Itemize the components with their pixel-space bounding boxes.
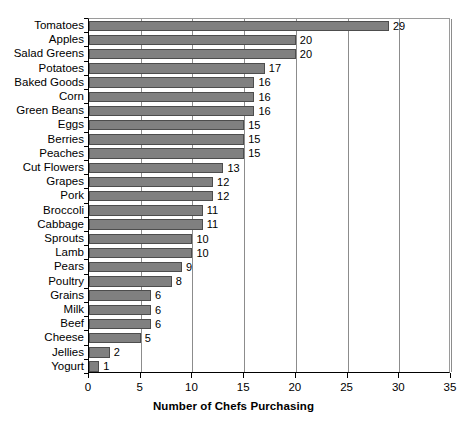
bar-row: 11 bbox=[89, 218, 449, 232]
bar[interactable] bbox=[89, 205, 203, 215]
y-axis-tick bbox=[84, 18, 88, 19]
x-axis-tick bbox=[243, 373, 244, 378]
bar-value-label: 16 bbox=[258, 90, 270, 104]
bar[interactable] bbox=[89, 361, 99, 371]
bar[interactable] bbox=[89, 219, 203, 229]
y-axis-tick bbox=[84, 103, 88, 104]
bar[interactable] bbox=[89, 177, 213, 187]
y-axis-tick bbox=[84, 61, 88, 62]
bar[interactable] bbox=[89, 63, 265, 73]
bar[interactable] bbox=[89, 49, 296, 59]
category-label-milk: Milk bbox=[0, 302, 84, 316]
y-axis-tick bbox=[84, 330, 88, 331]
x-axis-title: Number of Chefs Purchasing bbox=[0, 400, 467, 412]
bar-row: 16 bbox=[89, 76, 449, 90]
bar-value-label: 2 bbox=[114, 345, 120, 359]
category-label-salad-greens: Salad Greens bbox=[0, 46, 84, 60]
x-axis-tick-label: 25 bbox=[327, 380, 367, 394]
bar-row: 16 bbox=[89, 104, 449, 118]
bar[interactable] bbox=[89, 305, 151, 315]
category-label-pears: Pears bbox=[0, 259, 84, 273]
bar-value-label: 13 bbox=[227, 161, 239, 175]
bar-row: 12 bbox=[89, 189, 449, 203]
category-axis-labels: TomatoesApplesSalad GreensPotatoesBaked … bbox=[0, 18, 84, 373]
bar-value-label: 5 bbox=[145, 331, 151, 345]
bar[interactable] bbox=[89, 21, 389, 31]
bar-row: 16 bbox=[89, 90, 449, 104]
bar-value-label: 15 bbox=[248, 132, 260, 146]
bar-row: 10 bbox=[89, 232, 449, 246]
y-axis-tick bbox=[84, 174, 88, 175]
y-axis-tick bbox=[84, 117, 88, 118]
bar-value-label: 10 bbox=[196, 232, 208, 246]
category-label-poultry: Poultry bbox=[0, 274, 84, 288]
x-axis-tick bbox=[88, 373, 89, 378]
bar[interactable] bbox=[89, 134, 244, 144]
category-label-berries: Berries bbox=[0, 132, 84, 146]
bar-value-label: 20 bbox=[300, 47, 312, 61]
bar[interactable] bbox=[89, 35, 296, 45]
bar-row: 20 bbox=[89, 47, 449, 61]
x-axis-tick-label: 15 bbox=[223, 380, 263, 394]
bar[interactable] bbox=[89, 163, 223, 173]
bar-value-label: 6 bbox=[155, 288, 161, 302]
category-label-potatoes: Potatoes bbox=[0, 61, 84, 75]
x-axis-tick-label: 35 bbox=[430, 380, 467, 394]
category-label-corn: Corn bbox=[0, 89, 84, 103]
bar-row: 13 bbox=[89, 161, 449, 175]
bar-chart: TomatoesApplesSalad GreensPotatoesBaked … bbox=[0, 0, 467, 423]
category-label-lamb: Lamb bbox=[0, 245, 84, 259]
bar[interactable] bbox=[89, 347, 110, 357]
y-axis-tick bbox=[84, 302, 88, 303]
category-label-cut-flowers: Cut Flowers bbox=[0, 160, 84, 174]
y-axis-tick bbox=[84, 345, 88, 346]
bar[interactable] bbox=[89, 92, 254, 102]
y-axis-tick bbox=[84, 188, 88, 189]
plot-area: 2920201716161615151513121211111010986665… bbox=[88, 18, 450, 373]
bar-row: 15 bbox=[89, 133, 449, 147]
category-label-green-beans: Green Beans bbox=[0, 103, 84, 117]
y-axis-tick bbox=[84, 203, 88, 204]
bar[interactable] bbox=[89, 290, 151, 300]
y-axis-tick bbox=[84, 259, 88, 260]
bar-value-label: 12 bbox=[217, 175, 229, 189]
bar[interactable] bbox=[89, 248, 192, 258]
bar[interactable] bbox=[89, 333, 141, 343]
bar[interactable] bbox=[89, 191, 213, 201]
category-label-beef: Beef bbox=[0, 316, 84, 330]
bar-row: 11 bbox=[89, 204, 449, 218]
bar-value-label: 8 bbox=[176, 274, 182, 288]
category-label-yogurt: Yogurt bbox=[0, 359, 84, 373]
bar[interactable] bbox=[89, 106, 254, 116]
x-axis-tick bbox=[398, 373, 399, 378]
bar-row: 2 bbox=[89, 346, 449, 360]
bar[interactable] bbox=[89, 120, 244, 130]
y-axis-tick bbox=[84, 245, 88, 246]
bar-value-label: 16 bbox=[258, 104, 270, 118]
bar-value-label: 15 bbox=[248, 146, 260, 160]
y-axis-tick bbox=[84, 160, 88, 161]
bar-row: 29 bbox=[89, 19, 449, 33]
bar[interactable] bbox=[89, 319, 151, 329]
bar-row: 9 bbox=[89, 260, 449, 274]
y-axis-tick bbox=[84, 75, 88, 76]
bar-value-label: 10 bbox=[196, 246, 208, 260]
category-label-peaches: Peaches bbox=[0, 146, 84, 160]
bar-value-label: 17 bbox=[269, 61, 281, 75]
bar[interactable] bbox=[89, 262, 182, 272]
bar-value-label: 9 bbox=[186, 260, 192, 274]
bar-row: 20 bbox=[89, 33, 449, 47]
x-axis-tick-label: 10 bbox=[171, 380, 211, 394]
bar[interactable] bbox=[89, 148, 244, 158]
category-label-tomatoes: Tomatoes bbox=[0, 18, 84, 32]
x-axis-tick-label: 0 bbox=[68, 380, 108, 394]
y-axis-tick bbox=[84, 359, 88, 360]
category-label-broccoli: Broccoli bbox=[0, 203, 84, 217]
bar[interactable] bbox=[89, 234, 192, 244]
y-axis-tick bbox=[84, 274, 88, 275]
bar[interactable] bbox=[89, 276, 172, 286]
bar[interactable] bbox=[89, 77, 254, 87]
bar-value-label: 20 bbox=[300, 33, 312, 47]
bar-value-label: 15 bbox=[248, 118, 260, 132]
bar-row: 12 bbox=[89, 175, 449, 189]
